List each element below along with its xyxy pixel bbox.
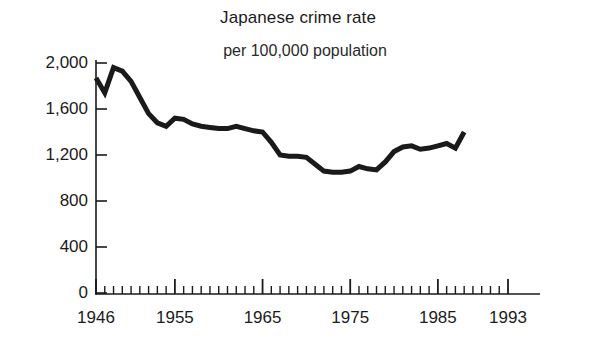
plot-area — [0, 0, 596, 341]
y-tick-label: 800 — [18, 192, 88, 209]
x-tick-label: 1993 — [473, 309, 543, 326]
y-tick-label: 1,600 — [18, 100, 88, 117]
x-tick-label: 1985 — [403, 309, 473, 326]
x-tick-label: 1955 — [140, 309, 210, 326]
chart-figure: Japanese crime rate per 100,000 populati… — [0, 0, 596, 341]
y-tick-label: 0 — [18, 284, 88, 301]
y-tick-label: 1,200 — [18, 146, 88, 163]
y-tick-label: 2,000 — [18, 54, 88, 71]
x-tick-label: 1946 — [61, 309, 131, 326]
crime-rate-line — [96, 68, 464, 173]
x-minor-tick-marks — [105, 286, 499, 294]
x-tick-label: 1975 — [315, 309, 385, 326]
y-tick-label: 400 — [18, 238, 88, 255]
x-tick-label: 1965 — [228, 309, 298, 326]
axis-lines — [96, 60, 540, 295]
